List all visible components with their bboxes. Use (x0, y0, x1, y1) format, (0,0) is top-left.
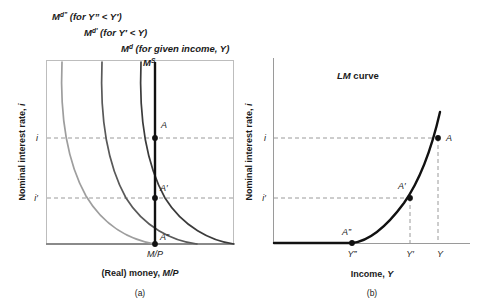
panel-b-xtick-y: Y (437, 249, 444, 259)
panel-a-point-label-a: A (160, 120, 167, 130)
svg-text:Md′ (for Y′ < Y): Md′ (for Y′ < Y) (84, 27, 147, 39)
svg-text:Md” (for Y” < Y′): Md” (for Y” < Y′) (52, 11, 122, 23)
panel-b-point-a-dot (435, 135, 441, 141)
figure-lm-curve-derivation: Md” (for Y” < Y′) Md′ (for Y′ < Y) Md (f… (0, 0, 477, 307)
panel-a-ytick-i: i (36, 133, 39, 143)
money-demand-curve-md1 (102, 62, 197, 244)
panel-a-point-a-prime-dot (152, 195, 158, 201)
panel-b-y-axis-title: Nominal interest rate, i (244, 103, 254, 201)
curve-label-md0: Md (for given income, Y) (121, 43, 229, 55)
panel-b-ytick-i: i (264, 133, 267, 143)
panel-a-point-a-dot (152, 135, 158, 141)
panel-a-label: (a) (135, 288, 146, 298)
panel-b-title: LM curve (337, 70, 379, 81)
panel-b-x-axis-title: Income, Y (351, 269, 395, 279)
panel-b-point-a-prime-dot (407, 195, 413, 201)
panel-b-point-label-a: A (445, 133, 452, 143)
svg-text:Md (for given income, Y): Md (for given income, Y) (121, 43, 229, 55)
panel-a-point-label-a-dprime: A” (159, 232, 170, 242)
panel-b-point-label-a-prime: A′ (397, 181, 406, 191)
panel-b-label: (b) (367, 288, 378, 298)
panel-b: LM curve A A′ A” i i′ Y” Y′ Y Nominal in… (244, 58, 470, 298)
panel-b-xtick-y-prime: Y′ (406, 249, 414, 259)
panel-b-xtick-y-dprime: Y” (348, 249, 358, 259)
panel-b-point-label-a-dprime: A” (341, 227, 352, 237)
panel-b-point-a-dprime-dot (349, 240, 355, 246)
panel-b-ytick-i-prime: i′ (262, 193, 266, 203)
curve-label-md2: Md” (for Y” < Y′) (52, 11, 122, 23)
panel-a: Md” (for Y” < Y′) Md′ (for Y′ < Y) Md (f… (17, 11, 234, 299)
panel-a-xtick-mp: M/P (147, 249, 163, 259)
panel-a-point-a-dprime-dot (152, 241, 158, 247)
panel-a-y-axis-title: Nominal interest rate, i (17, 103, 27, 201)
curve-label-md1: Md′ (for Y′ < Y) (84, 27, 147, 39)
lm-curve (274, 112, 440, 243)
panel-a-point-label-a-prime: A′ (159, 183, 168, 193)
panel-a-x-axis-title: (Real) money, M/P (102, 268, 180, 278)
panel-a-ytick-i-prime: i′ (34, 193, 38, 203)
